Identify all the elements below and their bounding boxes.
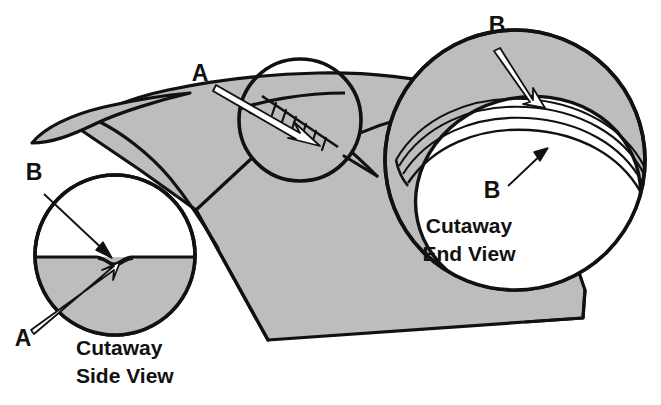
side-view-caption-line2: Side View — [76, 364, 174, 387]
callout-b-end-inner-label: B — [484, 177, 501, 203]
callout-b-side-label: B — [26, 159, 43, 185]
callout-a-top-label: A — [192, 60, 209, 86]
end-view-caption-line2: End View — [423, 242, 517, 265]
technical-diagram: Cutaway End View Cutaway Side View — [0, 0, 661, 405]
callout-a-side-label: A — [15, 325, 32, 351]
side-view-caption-line1: Cutaway — [76, 336, 163, 359]
callout-b-end-outer-label: B — [489, 12, 506, 38]
end-view-caption-line1: Cutaway — [426, 214, 513, 237]
diagram-canvas: Cutaway End View Cutaway Side View — [0, 0, 661, 405]
